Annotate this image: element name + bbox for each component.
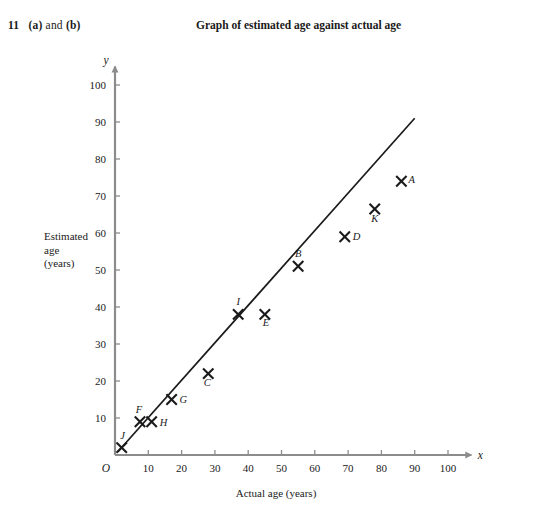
- y-tick-label: 100: [90, 79, 107, 91]
- x-tick-label: 70: [343, 462, 355, 474]
- data-point-j: J: [116, 430, 126, 453]
- point-label-f: F: [135, 404, 143, 415]
- point-label-g: G: [180, 394, 188, 405]
- y-tick-label: 90: [95, 116, 107, 128]
- y-tick-label: 10: [95, 412, 107, 424]
- data-point-h: H: [146, 417, 168, 428]
- data-point-d: D: [340, 231, 361, 242]
- data-point-c: C: [203, 368, 213, 387]
- best-fit-line-group: [118, 118, 414, 451]
- x-tick-label: 100: [440, 462, 457, 474]
- best-fit-line: [118, 118, 414, 451]
- point-label-a: A: [407, 174, 415, 185]
- y-axis-symbol: y: [102, 54, 109, 67]
- y-tick-label: 50: [95, 264, 107, 276]
- y-tick-label: 40: [95, 301, 107, 313]
- scatter-plot: 1020304050607080901001020304050607080901…: [0, 0, 552, 514]
- y-tick-label: 60: [95, 227, 107, 239]
- point-label-h: H: [159, 417, 169, 428]
- data-point-a: A: [396, 174, 415, 186]
- point-label-k: K: [370, 213, 379, 224]
- x-tick-label: 90: [409, 462, 421, 474]
- x-tick-label: 20: [176, 462, 188, 474]
- x-tick-label: 30: [209, 462, 221, 474]
- y-tick-label: 80: [95, 153, 107, 165]
- point-label-i: I: [235, 296, 240, 307]
- origin-label: O: [102, 462, 111, 474]
- data-point-b: B: [293, 248, 303, 271]
- data-point-e: E: [260, 309, 270, 328]
- point-label-c: C: [204, 377, 212, 388]
- point-label-j: J: [120, 430, 126, 441]
- data-point-k: K: [370, 204, 380, 224]
- data-point-g: G: [166, 394, 187, 405]
- x-tick-label: 60: [309, 462, 321, 474]
- point-label-d: D: [352, 231, 361, 242]
- x-tick-label: 40: [243, 462, 255, 474]
- y-tick-label: 70: [95, 190, 107, 202]
- x-tick-label: 50: [276, 462, 288, 474]
- axis-symbols-group: xyO: [102, 54, 484, 475]
- data-points-group: ABCDEFGHIJK: [116, 174, 415, 453]
- x-tick-label: 80: [376, 462, 388, 474]
- point-label-e: E: [262, 317, 270, 328]
- point-label-b: B: [295, 248, 302, 259]
- x-tick-label: 10: [143, 462, 155, 474]
- y-tick-label: 20: [95, 375, 107, 387]
- y-tick-label: 30: [95, 338, 107, 350]
- axes-group: [112, 66, 473, 459]
- x-axis-symbol: x: [477, 449, 484, 461]
